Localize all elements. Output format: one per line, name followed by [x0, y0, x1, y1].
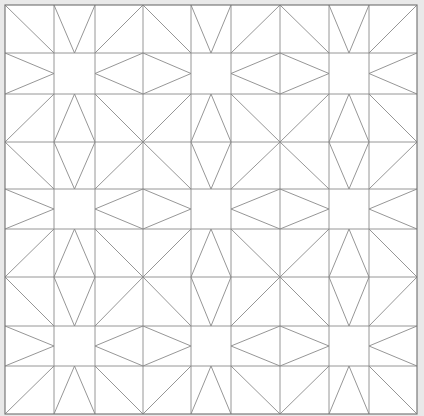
quilt-background [5, 5, 417, 414]
quilt-pattern-diagram [0, 0, 424, 416]
